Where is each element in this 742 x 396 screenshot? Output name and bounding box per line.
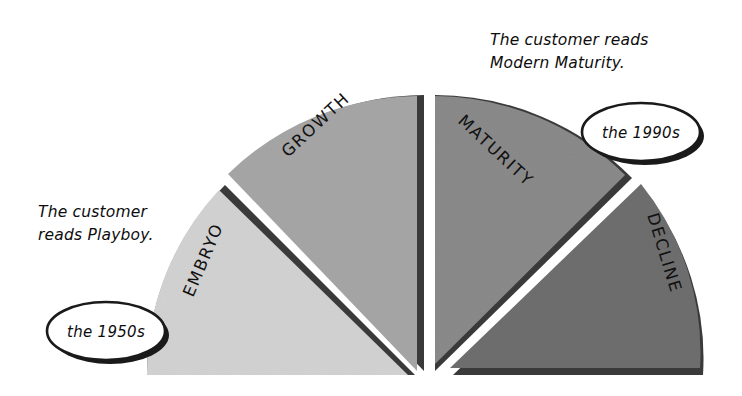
callout-modern-maturity-line1: The customer reads (490, 31, 649, 49)
bubble-the-1990s-label: the 1990s (602, 124, 680, 142)
callout-playboy-line2: reads Playboy. (38, 226, 154, 244)
product-life-cycle-diagram: EMBRYO GROWTH MATURITY DECLINE The custo… (0, 0, 742, 396)
callout-modern-maturity-line2: Modern Maturity. (490, 54, 625, 72)
bubble-the-1950s-label: the 1950s (67, 323, 145, 341)
bubble-the-1950s[interactable]: the 1950s (47, 302, 169, 364)
callout-modern-maturity: The customer reads Modern Maturity. (490, 31, 649, 72)
diagram-canvas: EMBRYO GROWTH MATURITY DECLINE The custo… (0, 0, 742, 396)
callout-playboy: The customer reads Playboy. (38, 203, 154, 244)
callout-playboy-line1: The customer (38, 203, 149, 221)
